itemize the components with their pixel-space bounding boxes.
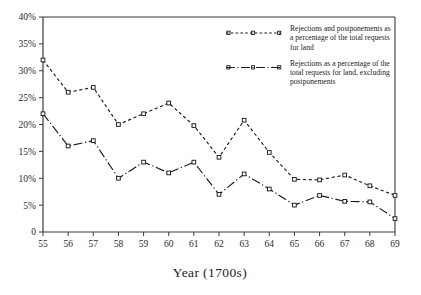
x-tick-label-67: 67 bbox=[340, 239, 350, 249]
data-point-1-67 bbox=[343, 200, 347, 204]
data-point-0-68 bbox=[368, 184, 372, 188]
y-tick-label-35: 35% bbox=[19, 39, 37, 49]
chart-figure: 05%10%15%20%25%30%35%40% 555657585960616… bbox=[0, 0, 421, 295]
data-point-1-55 bbox=[41, 112, 45, 116]
x-tick-label-64: 64 bbox=[265, 239, 275, 249]
x-tick-label-60: 60 bbox=[164, 239, 174, 249]
x-tick-label-66: 66 bbox=[315, 239, 325, 249]
data-point-1-65 bbox=[293, 203, 297, 207]
x-tick-label-57: 57 bbox=[89, 239, 99, 249]
y-tick-label-40: 40% bbox=[19, 12, 37, 22]
y-tick-label-30: 30% bbox=[19, 66, 37, 76]
data-point-1-66 bbox=[318, 194, 322, 198]
chart-background bbox=[0, 0, 421, 295]
x-tick-label-55: 55 bbox=[38, 239, 48, 249]
y-tick-label-5: 5% bbox=[23, 201, 36, 211]
x-tick-label-62: 62 bbox=[214, 239, 224, 249]
data-point-1-63 bbox=[242, 172, 246, 176]
x-tick-label-68: 68 bbox=[365, 239, 375, 249]
data-point-1-64 bbox=[267, 187, 271, 191]
data-point-1-59 bbox=[142, 160, 146, 164]
data-point-0-62 bbox=[217, 155, 221, 159]
x-tick-label-65: 65 bbox=[290, 239, 300, 249]
y-tick-label-15: 15% bbox=[19, 147, 37, 157]
x-tick-label-63: 63 bbox=[239, 239, 249, 249]
data-point-0-56 bbox=[66, 90, 70, 94]
data-point-1-57 bbox=[91, 139, 95, 143]
y-tick-label-10: 10% bbox=[19, 174, 37, 184]
y-tick-label-0: 0 bbox=[31, 227, 36, 237]
data-point-0-59 bbox=[142, 112, 146, 116]
x-tick-label-56: 56 bbox=[63, 239, 73, 249]
data-point-0-60 bbox=[167, 101, 171, 105]
line-chart: 05%10%15%20%25%30%35%40% 555657585960616… bbox=[0, 0, 421, 295]
data-point-1-62 bbox=[217, 193, 221, 197]
data-point-0-63 bbox=[242, 118, 246, 122]
data-point-0-57 bbox=[91, 86, 95, 90]
x-tick-label-69: 69 bbox=[390, 239, 400, 249]
y-tick-label-20: 20% bbox=[19, 120, 37, 130]
data-point-0-65 bbox=[293, 177, 297, 181]
x-axis-tick-labels: 555657585960616263646566676869 bbox=[38, 239, 400, 249]
data-point-0-55 bbox=[41, 58, 45, 62]
x-tick-label-61: 61 bbox=[189, 239, 199, 249]
data-point-0-58 bbox=[117, 123, 121, 127]
data-point-1-56 bbox=[66, 144, 70, 148]
data-point-0-69 bbox=[393, 194, 397, 198]
data-point-1-61 bbox=[192, 160, 196, 164]
data-point-1-60 bbox=[167, 171, 171, 175]
data-point-0-66 bbox=[318, 178, 322, 182]
y-tick-label-25: 25% bbox=[19, 93, 37, 103]
x-axis-title: Year (1700s) bbox=[173, 265, 247, 280]
x-tick-label-58: 58 bbox=[114, 239, 124, 249]
x-tick-label-59: 59 bbox=[139, 239, 149, 249]
data-point-1-69 bbox=[393, 217, 397, 221]
data-point-0-67 bbox=[343, 173, 347, 177]
data-point-1-58 bbox=[117, 176, 121, 180]
data-point-0-64 bbox=[267, 151, 271, 155]
data-point-1-68 bbox=[368, 200, 372, 204]
data-point-0-61 bbox=[192, 124, 196, 128]
